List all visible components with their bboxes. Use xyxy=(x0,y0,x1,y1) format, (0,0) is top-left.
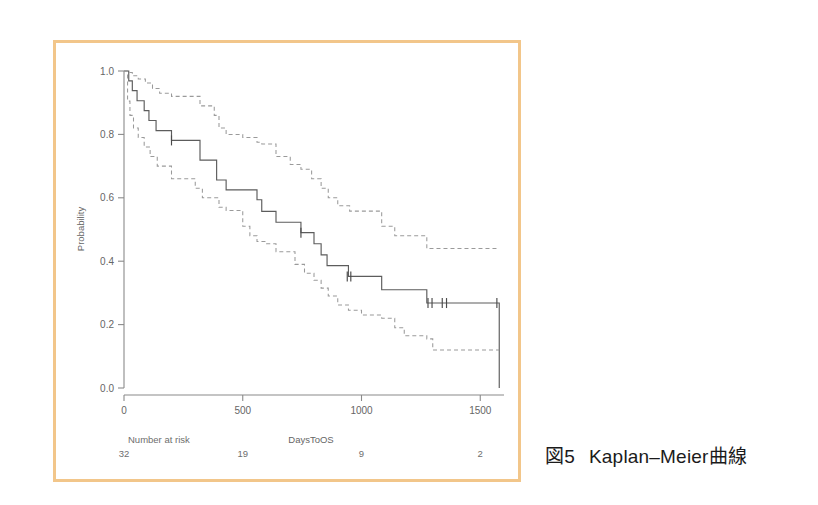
number-at-risk-label: Number at risk xyxy=(128,434,190,445)
y-axis-ticks: 0.00.20.40.60.81.0 xyxy=(100,66,124,394)
km-estimate-curve xyxy=(124,71,499,388)
km-confidence-band xyxy=(124,71,499,249)
x-axis-title: DaysToOS xyxy=(288,434,333,445)
y-axis-title: Probability xyxy=(75,207,86,252)
y-tick-label: 0.6 xyxy=(100,192,114,203)
figure-caption: 図5Kaplan–Meier曲線 xyxy=(545,441,747,468)
figure-caption-title: Kaplan–Meier曲線 xyxy=(589,446,747,467)
y-tick-label: 0.8 xyxy=(100,129,114,140)
y-tick-label: 1.0 xyxy=(100,66,114,77)
x-tick-label: 1000 xyxy=(350,405,373,416)
number-at-risk-value: 2 xyxy=(478,448,483,459)
number-at-risk-values: 321992 xyxy=(119,448,483,459)
x-axis-ticks: 050010001500 xyxy=(121,395,492,416)
number-at-risk-value: 19 xyxy=(237,448,248,459)
x-tick-label: 1500 xyxy=(469,405,492,416)
x-tick-label: 500 xyxy=(234,405,251,416)
censoring-marks xyxy=(172,135,497,308)
y-tick-label: 0.0 xyxy=(100,383,114,394)
figure-caption-number: 図5 xyxy=(545,446,575,467)
number-at-risk-value: 9 xyxy=(359,448,364,459)
km-curves xyxy=(124,71,499,388)
km-confidence-band xyxy=(124,71,499,350)
y-tick-label: 0.2 xyxy=(100,319,114,330)
x-tick-label: 0 xyxy=(121,405,127,416)
kaplan-meier-plot: 0.00.20.40.60.81.0 050010001500 Probabil… xyxy=(56,43,518,479)
number-at-risk-value: 32 xyxy=(119,448,130,459)
figure-frame: 0.00.20.40.60.81.0 050010001500 Probabil… xyxy=(53,40,521,482)
y-tick-label: 0.4 xyxy=(100,256,114,267)
